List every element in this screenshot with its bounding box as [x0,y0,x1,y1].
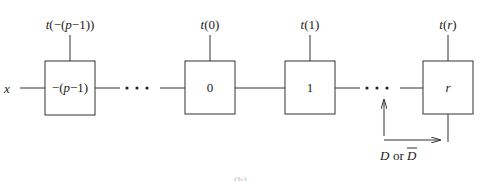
tap-label-neg-p-minus-1: t(−(p−1)) [46,17,95,32]
cell-label: 0 [207,80,214,95]
cell-1: t(1) 1 [285,17,335,114]
caption-fragment: (b) [234,174,247,181]
tap-label-1: t(1) [301,17,320,32]
input-label: x [3,81,10,96]
cell-neg-p-minus-1: t(−(p−1)) −(p−1) [45,17,95,115]
cell-label: −(p−1) [52,80,88,95]
fault-d: D [379,148,390,163]
tap-label-r: t(r) [439,17,456,32]
cell-r: t(r) r [423,17,473,142]
cell-0: t(0) 0 [185,17,235,114]
fault-d-bar: D [406,148,417,163]
tap-label-0: t(0) [201,17,220,32]
cell-label: 1 [307,80,314,95]
ellipsis-icon [365,86,388,89]
ellipsis-icon [125,86,148,89]
delay-chain-diagram: x t(−(p−1)) −(p−1) t(0) 0 t(1) 1 t(r) [0,0,480,181]
fault-label: D or D [379,148,417,163]
fault-or: or [393,148,405,163]
